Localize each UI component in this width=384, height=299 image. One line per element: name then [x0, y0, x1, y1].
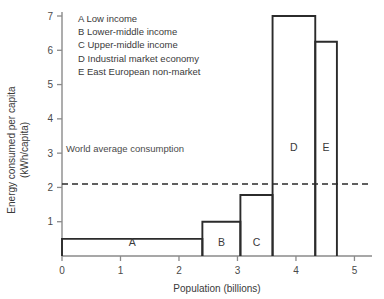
x-axis-ticks: 012345: [59, 256, 357, 276]
y-axis-ticks: 1234567: [47, 11, 62, 228]
world-average-annotation: World average consumption: [66, 143, 184, 154]
bar-label-B: B: [218, 236, 225, 248]
legend-entry-4: E East European non-market: [78, 66, 201, 77]
y-ticklabel-5: 5: [47, 79, 53, 90]
bar-label-C: C: [253, 236, 261, 248]
x-ticklabel-0: 0: [59, 265, 65, 276]
bar-label-A: A: [129, 236, 136, 248]
x-ticklabel-2: 2: [176, 265, 182, 276]
x-ticklabel-4: 4: [293, 265, 299, 276]
y-axis-title-line1: Energy consumed per capita: [6, 86, 17, 214]
bar-D: [273, 16, 316, 256]
x-ticklabel-3: 3: [235, 265, 241, 276]
bar-labels-group: ABCDE: [129, 141, 330, 248]
y-ticklabel-1: 1: [47, 216, 53, 227]
energy-vs-population-bar-chart: Energy consumed per capita (kWh/capita) …: [0, 0, 384, 299]
x-axis-title: Population (billions): [173, 283, 260, 294]
legend-entry-3: D Industrial market economy: [78, 53, 199, 64]
y-ticklabel-6: 6: [47, 45, 53, 56]
legend-entry-1: B Lower-middle income: [78, 26, 177, 37]
y-ticklabel-2: 2: [47, 182, 53, 193]
legend: A Low incomeB Lower-middle incomeC Upper…: [78, 13, 201, 77]
x-ticklabel-5: 5: [352, 265, 358, 276]
y-axis-title-line2: (kWh/capita): [19, 122, 30, 178]
bar-label-E: E: [323, 141, 330, 153]
y-ticklabel-3: 3: [47, 148, 53, 159]
legend-entry-2: C Upper-middle income: [78, 39, 178, 50]
bar-label-D: D: [290, 141, 298, 153]
legend-entry-0: A Low income: [78, 13, 137, 24]
y-axis-title: Energy consumed per capita (kWh/capita): [6, 86, 30, 214]
chart-container: Energy consumed per capita (kWh/capita) …: [0, 0, 384, 299]
x-ticklabel-1: 1: [118, 265, 124, 276]
y-ticklabel-4: 4: [47, 113, 53, 124]
y-ticklabel-7: 7: [47, 11, 53, 22]
